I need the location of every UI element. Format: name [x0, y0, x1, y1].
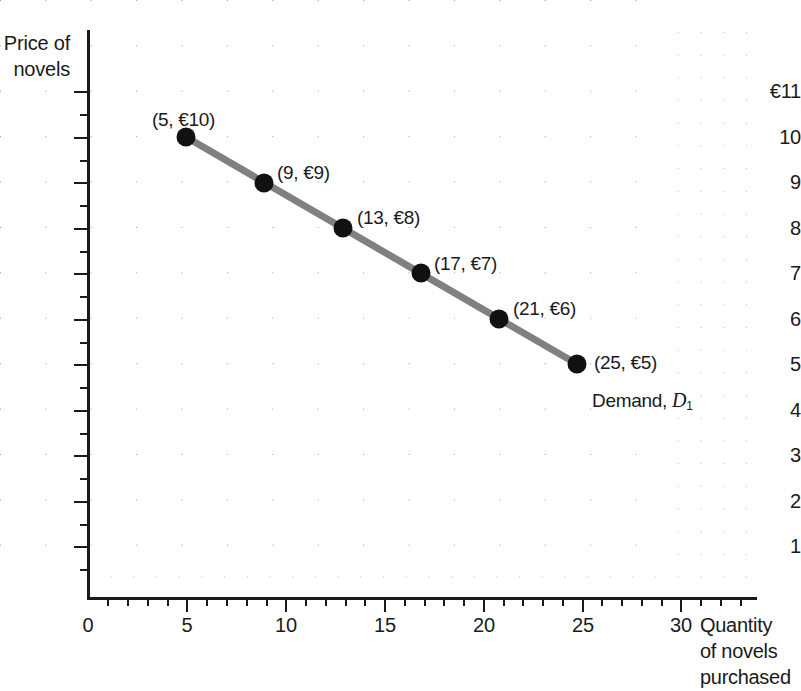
data-point-marker: [568, 355, 587, 374]
data-point-marker: [412, 264, 431, 283]
data-point-marker: [490, 310, 509, 329]
demand-annotation-subscript: 1: [686, 399, 692, 413]
demand-curve-chart: €11 10 9 8 7 6 5 4 3 2 1 0 5 10 15 20 25…: [0, 0, 801, 691]
data-point-label-6: (25, €5): [594, 353, 657, 373]
data-point-marker: [255, 174, 274, 193]
demand-annotation-prefix: Demand,: [592, 390, 672, 411]
data-point-label-1: (5, €10): [152, 110, 215, 130]
demand-curve-line: [186, 137, 577, 364]
demand-curve-annotation: Demand, D1: [592, 390, 693, 413]
data-point-label-3: (13, €8): [357, 208, 420, 228]
data-point-marker: [177, 128, 196, 147]
demand-annotation-symbol: D: [672, 389, 686, 411]
data-point-label-2: (9, €9): [277, 163, 330, 183]
data-point-label-4: (17, €7): [434, 254, 497, 274]
demand-series: [0, 0, 801, 691]
data-point-marker: [334, 219, 353, 238]
data-point-label-5: (21, €6): [513, 299, 576, 319]
